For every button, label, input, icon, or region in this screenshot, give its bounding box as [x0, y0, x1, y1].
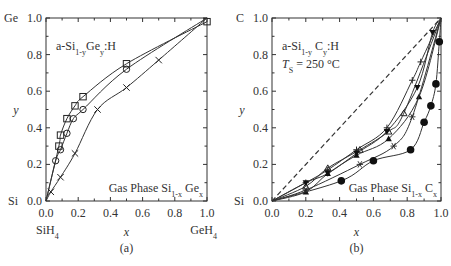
star-marker — [409, 114, 415, 120]
figure-canvas: 0.00.20.40.60.81.00.00.20.40.60.81.0GeSi… — [0, 0, 451, 266]
y-tick-label: 0.8 — [27, 48, 42, 62]
x-tick-label: 0.0 — [39, 206, 54, 220]
filled-circle-marker — [420, 119, 428, 127]
filled-circle-marker — [436, 38, 444, 46]
inset-subtitle: TS = 250 °C — [282, 57, 340, 75]
x-right-label: GeH4 — [190, 223, 217, 241]
x-tick-label: 0.4 — [103, 206, 118, 220]
down-triangle-marker — [414, 85, 420, 91]
chart-panel-b: 0.00.20.40.60.81.00.00.20.40.60.81.0CSiy… — [234, 11, 449, 255]
y-axis-label: y — [238, 103, 245, 117]
x-tick-label: 0.8 — [400, 206, 415, 220]
x-marker — [123, 84, 129, 90]
x-tick-label: 0.6 — [366, 206, 381, 220]
y-tick-label: 1.0 — [27, 11, 42, 25]
inset-title: a-Si1-y Cy:H — [282, 39, 339, 57]
chart-panel-a: 0.00.20.40.60.81.00.00.20.40.60.81.0GeSi… — [4, 11, 217, 255]
x-tick-label: 0.8 — [167, 206, 182, 220]
y-tick-label: 0.2 — [27, 157, 42, 171]
x-tick-label: 0.2 — [71, 206, 86, 220]
y-tick-label: 1.0 — [253, 11, 268, 25]
y-bottom-label: Si — [8, 194, 19, 208]
panel-label: (b) — [350, 241, 364, 255]
filled-circle-marker — [427, 102, 435, 110]
filled-circle-marker — [337, 177, 345, 185]
filled-circle-marker — [432, 80, 440, 88]
plus-marker — [409, 77, 415, 83]
x-marker — [94, 106, 100, 112]
crosses-series — [48, 57, 162, 195]
x-marker — [57, 174, 63, 180]
panel-label: (a) — [120, 241, 133, 255]
x-axis-label: x — [123, 225, 130, 239]
filled-circles-series — [337, 38, 443, 185]
y-bottom-label: Si — [234, 194, 245, 208]
y-axis-label: y — [12, 103, 19, 117]
x-tick-label: 0.2 — [298, 206, 313, 220]
x-marker — [72, 150, 78, 156]
gas-phase-annotation: Gas Phase Si1-x Gex — [109, 181, 203, 199]
y-tick-label: 0.6 — [253, 84, 268, 98]
x-tick-label: 0.4 — [332, 206, 347, 220]
y-tick-label: 0.4 — [27, 121, 42, 135]
squares-series — [56, 18, 211, 149]
y-top-label: C — [236, 11, 244, 25]
y-tick-label: 0.8 — [253, 48, 268, 62]
x-marker — [156, 57, 162, 63]
filled-circle-marker — [370, 157, 378, 165]
y-tick-label: 0.0 — [27, 194, 42, 208]
x-tick-label: 1.0 — [200, 206, 215, 220]
x-axis-label: x — [353, 225, 360, 239]
y-tick-label: 0.4 — [253, 121, 268, 135]
x-left-label: SiH4 — [36, 223, 59, 241]
x-tick-label: 0.6 — [135, 206, 150, 220]
y-tick-label: 0.0 — [253, 194, 268, 208]
x-tick-label: 0.0 — [265, 206, 280, 220]
star-marker — [357, 161, 363, 167]
x-tick-label: 1.0 — [434, 206, 449, 220]
y-tick-label: 0.6 — [27, 84, 42, 98]
filled-circle-marker — [407, 146, 415, 154]
gas-phase-annotation: Gas Phase Si1-x Cx — [349, 181, 437, 199]
y-tick-label: 0.2 — [253, 157, 268, 171]
inset-title: a-Si1-yGey:H — [56, 39, 116, 57]
y-top-label: Ge — [4, 11, 18, 25]
